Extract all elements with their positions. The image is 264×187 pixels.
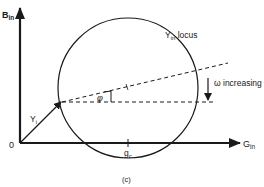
- yi-phasor-label: Yi: [30, 114, 37, 125]
- phi-label: φ: [97, 93, 103, 103]
- g-main: G: [243, 139, 250, 149]
- yi-sub: i: [36, 119, 37, 125]
- admittance-locus-diagram: φ ω increasing Yin locus Bin Gin 0 Yi gc…: [0, 0, 264, 187]
- origin-label: 0: [9, 140, 14, 150]
- yi-phasor-arrow: [20, 102, 61, 143]
- omega-text: increasing: [221, 78, 262, 88]
- omega-increasing-label: ω increasing: [214, 78, 262, 88]
- b-in-axis-label: Bin: [2, 10, 14, 21]
- figure-caption: (c): [122, 175, 131, 184]
- gc-sub: c: [129, 153, 132, 159]
- b-sub: in: [9, 14, 15, 21]
- g-sub: in: [250, 143, 255, 150]
- yin-locus-label: Yin locus: [165, 30, 198, 41]
- inclined-dashed-line: [62, 63, 228, 102]
- g-in-axis-label: Gin: [243, 139, 255, 150]
- yin-rest: locus: [175, 30, 197, 40]
- phi-angle-marker: [104, 91, 111, 102]
- gc-label: gc: [124, 148, 132, 159]
